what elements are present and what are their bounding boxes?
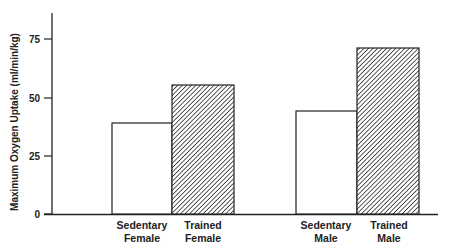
- bar-trained-female: [172, 85, 234, 214]
- label-sedentary-female-2: Female: [124, 232, 160, 244]
- bar-sedentary-female: [112, 123, 172, 214]
- y-ticks: 0 25 50 75: [29, 34, 52, 220]
- label-trained-female-2: Female: [185, 232, 221, 244]
- y-axis-title: Maximum Oxygen Uptake (ml/min/kg): [9, 33, 20, 211]
- label-trained-male-2: Male: [377, 232, 401, 244]
- tick-label-50: 50: [29, 93, 41, 104]
- label-trained-male-1: Trained: [370, 219, 407, 231]
- label-sedentary-male-1: Sedentary: [301, 219, 352, 231]
- category-labels: Sedentary Female Trained Female Sedentar…: [117, 219, 408, 244]
- bar-trained-male: [357, 48, 419, 214]
- bar-sedentary-male: [296, 111, 357, 214]
- tick-label-25: 25: [29, 151, 41, 162]
- label-trained-female-1: Trained: [184, 219, 221, 231]
- label-sedentary-female-1: Sedentary: [117, 219, 168, 231]
- tick-label-0: 0: [34, 209, 40, 220]
- label-sedentary-male-2: Male: [314, 232, 338, 244]
- tick-label-75: 75: [29, 34, 41, 45]
- chart-canvas: Maximum Oxygen Uptake (ml/min/kg) 0 25 5…: [0, 0, 450, 252]
